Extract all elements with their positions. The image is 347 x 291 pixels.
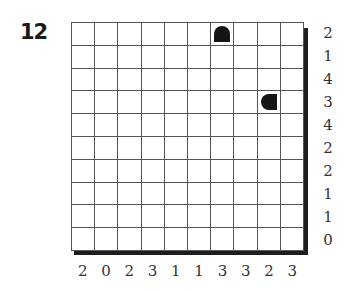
grid-cell[interactable] — [188, 228, 211, 251]
grid-cell[interactable] — [165, 205, 188, 228]
grid-cell[interactable] — [142, 137, 165, 160]
grid-cell[interactable] — [142, 160, 165, 183]
grid-cell[interactable] — [188, 23, 211, 46]
grid-cell[interactable] — [211, 46, 234, 69]
grid-cell[interactable] — [211, 228, 234, 251]
grid-cell[interactable] — [281, 46, 304, 69]
grid-cell[interactable] — [118, 69, 141, 92]
grid-cell[interactable] — [188, 183, 211, 206]
grid-cell[interactable] — [258, 205, 281, 228]
grid-cell[interactable] — [95, 23, 118, 46]
grid-cell[interactable] — [142, 114, 165, 137]
grid-cell[interactable] — [281, 137, 304, 160]
grid-cell[interactable] — [165, 91, 188, 114]
grid-cell[interactable] — [118, 160, 141, 183]
grid-cell[interactable] — [72, 114, 95, 137]
grid-cell[interactable] — [165, 183, 188, 206]
grid-cell[interactable] — [281, 69, 304, 92]
grid-cell[interactable] — [211, 183, 234, 206]
grid-cell[interactable] — [118, 91, 141, 114]
grid-cell[interactable] — [165, 114, 188, 137]
grid-cell[interactable] — [258, 160, 281, 183]
grid-cell[interactable] — [165, 23, 188, 46]
grid-cell[interactable] — [234, 23, 257, 46]
grid-cell[interactable] — [258, 46, 281, 69]
grid-cell[interactable] — [258, 114, 281, 137]
grid-cell[interactable] — [118, 205, 141, 228]
grid-cell[interactable] — [95, 46, 118, 69]
grid-cell[interactable] — [211, 114, 234, 137]
grid-cell[interactable] — [211, 91, 234, 114]
grid-cell[interactable] — [118, 228, 141, 251]
grid-cell[interactable] — [142, 91, 165, 114]
grid-cell[interactable] — [258, 137, 281, 160]
grid-cell[interactable] — [258, 183, 281, 206]
grid-cell[interactable] — [165, 228, 188, 251]
grid-cell[interactable] — [95, 114, 118, 137]
grid-cell[interactable] — [72, 69, 95, 92]
grid-cell[interactable] — [165, 46, 188, 69]
grid-cell[interactable] — [72, 91, 95, 114]
grid-cell[interactable] — [258, 69, 281, 92]
grid-cell[interactable] — [188, 91, 211, 114]
grid-cell[interactable] — [281, 183, 304, 206]
grid-cell[interactable] — [95, 91, 118, 114]
grid-cell[interactable] — [142, 46, 165, 69]
grid-cell[interactable] — [281, 228, 304, 251]
grid-cell[interactable] — [211, 23, 234, 46]
grid-cell[interactable] — [118, 114, 141, 137]
grid-cell[interactable] — [118, 137, 141, 160]
grid-cell[interactable] — [95, 69, 118, 92]
grid-cell[interactable] — [142, 228, 165, 251]
grid-cell[interactable] — [72, 46, 95, 69]
grid-cell[interactable] — [258, 23, 281, 46]
grid-cell[interactable] — [211, 160, 234, 183]
grid-cell[interactable] — [281, 23, 304, 46]
grid-cell[interactable] — [234, 205, 257, 228]
grid-cell[interactable] — [72, 205, 95, 228]
grid-cell[interactable] — [234, 137, 257, 160]
grid-cell[interactable] — [211, 69, 234, 92]
grid-cell[interactable] — [234, 228, 257, 251]
grid-cell[interactable] — [72, 183, 95, 206]
grid-cell[interactable] — [188, 114, 211, 137]
grid-cell[interactable] — [188, 160, 211, 183]
grid-cell[interactable] — [234, 114, 257, 137]
grid-cell[interactable] — [142, 69, 165, 92]
grid-cell[interactable] — [234, 46, 257, 69]
grid-cell[interactable] — [188, 69, 211, 92]
grid-cell[interactable] — [188, 46, 211, 69]
grid-cell[interactable] — [211, 205, 234, 228]
grid-cell[interactable] — [118, 46, 141, 69]
grid-cell[interactable] — [281, 160, 304, 183]
grid-cell[interactable] — [281, 205, 304, 228]
grid-cell[interactable] — [211, 137, 234, 160]
grid-cell[interactable] — [95, 228, 118, 251]
grid-cell[interactable] — [72, 23, 95, 46]
grid-cell[interactable] — [165, 160, 188, 183]
grid-cell[interactable] — [95, 160, 118, 183]
grid-cell[interactable] — [142, 23, 165, 46]
grid-cell[interactable] — [234, 69, 257, 92]
grid-cell[interactable] — [258, 91, 281, 114]
grid-cell[interactable] — [95, 183, 118, 206]
grid-cell[interactable] — [142, 205, 165, 228]
grid-cell[interactable] — [142, 183, 165, 206]
grid-cell[interactable] — [118, 23, 141, 46]
grid-cell[interactable] — [72, 160, 95, 183]
grid-cell[interactable] — [72, 228, 95, 251]
grid-cell[interactable] — [234, 160, 257, 183]
grid-cell[interactable] — [95, 205, 118, 228]
grid-cell[interactable] — [165, 69, 188, 92]
grid-cell[interactable] — [258, 228, 281, 251]
grid-cell[interactable] — [72, 137, 95, 160]
grid-cell[interactable] — [281, 91, 304, 114]
grid-cell[interactable] — [95, 137, 118, 160]
grid-cell[interactable] — [188, 137, 211, 160]
grid-cell[interactable] — [188, 205, 211, 228]
grid-cell[interactable] — [234, 91, 257, 114]
grid-cell[interactable] — [165, 137, 188, 160]
grid-cell[interactable] — [281, 114, 304, 137]
grid-cell[interactable] — [234, 183, 257, 206]
grid-cell[interactable] — [118, 183, 141, 206]
